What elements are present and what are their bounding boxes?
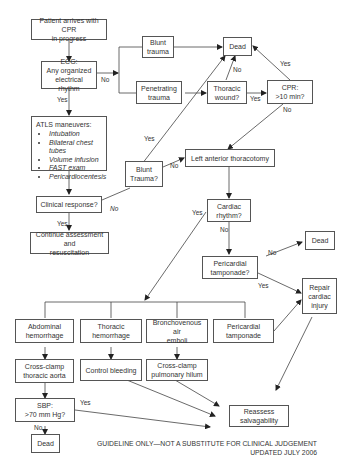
edge-label-cardiac-no: No: [220, 226, 228, 233]
edge-label-blunt-yes: Yes: [144, 135, 155, 142]
edge-label-cpr-yes: Yes: [280, 60, 291, 67]
edge-label-thoracic-yes: Yes: [250, 95, 261, 102]
left-thoracotomy-node: Left anterior thoracotomy: [185, 149, 275, 167]
atls-item: Volume infusion: [49, 156, 106, 165]
dead-top-node: Dead: [223, 37, 252, 56]
abdominal-hemorrhage-node: Abdominal hemorrhage: [15, 319, 74, 343]
atls-item: Pericardiocentesis: [49, 173, 106, 182]
atls-title: ATLS maneuvers:: [36, 120, 92, 129]
atls-item: FAST exam: [49, 164, 106, 173]
atls-node: ATLS maneuvers: Intubation Bilateral che…: [31, 116, 107, 171]
edge-label-ecg-yes: Yes: [57, 96, 68, 103]
atls-item: Bilateral chest tubes: [49, 139, 106, 156]
thoracic-hemorrhage-node: Thoracic hemorrhage: [80, 319, 142, 343]
blunt-trauma-node: Blunt trauma: [142, 36, 174, 58]
control-bleeding-node: Control bleeding: [80, 359, 142, 381]
edge-label-sbp-yes: Yes: [80, 399, 91, 406]
clinical-response-node: Clinical response?: [36, 196, 102, 213]
pericardial-tamponade-question-node: Pericardial tamponade?: [202, 256, 258, 279]
cpr-time-node: CPR: >10 min?: [267, 80, 313, 104]
repair-cardiac-injury-node: Repair cardiac injury: [302, 278, 337, 314]
atls-list: Intubation Bilateral chest tubes Volume …: [36, 130, 106, 182]
bronchovenous-emboli-node: Bronchovenous air emboli: [146, 319, 208, 343]
start-node: Patient arrives with CPR in progress: [31, 19, 107, 40]
edge-label-tamponade-yes: Yes: [258, 282, 269, 289]
atls-item: Intubation: [49, 130, 106, 139]
disclaimer-line-2: UPDATED JULY 2006: [250, 449, 317, 456]
disclaimer-line-1: GUIDELINE ONLY—NOT A SUBSTITUTE FOR CLIN…: [97, 440, 317, 447]
pericardial-tamponade-node: Pericardial tamponade: [213, 319, 274, 343]
dead-right-node: Dead: [305, 231, 335, 250]
edge-label-cardiac-yes: Yes: [192, 209, 203, 216]
edge-label-sbp-no: No: [34, 424, 42, 431]
blunt-trauma-question-node: Blunt Trauma?: [125, 161, 163, 187]
edge-label-clinical-no: No: [110, 205, 118, 212]
cardiac-rhythm-node: Cardiac rhythm?: [207, 199, 251, 222]
edge-label-cpr-no: No: [283, 106, 291, 113]
edge-label-ecg-no: No: [101, 76, 109, 83]
edge-label-clinical-yes: Yes: [57, 220, 68, 227]
sbp-node: SBP: >70 mm Hg?: [15, 398, 75, 422]
continue-node: Continue assessment and resuscitation: [30, 232, 109, 254]
dead-bottom-node: Dead: [31, 434, 60, 453]
penetrating-trauma-node: Penetrating trauma: [136, 81, 182, 104]
edge-label-tamponade-no: No: [268, 249, 276, 256]
edge-label-thoracic-no: No: [233, 66, 241, 73]
crossclamp-hilum-node: Cross-clamp pulmonary hilum: [146, 359, 208, 381]
ecg-node: ECG: Any organized electrical rhythm: [41, 61, 97, 89]
edge-label-blunt-no: No: [170, 162, 178, 169]
crossclamp-aorta-node: Cross-clamp thoracic aorta: [15, 359, 74, 383]
reassess-node: Reassess salvagability: [229, 405, 289, 427]
thoracic-wound-node: Thoracic wound?: [207, 81, 247, 104]
